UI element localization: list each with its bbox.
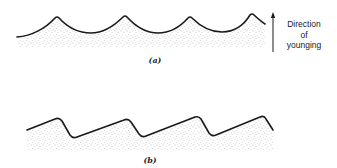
panel-a-ripples xyxy=(17,14,265,47)
panel-a-label: (a) xyxy=(149,55,162,65)
ripple-marks-figure: Direction of younging (a) (b) xyxy=(0,0,337,168)
annotation-line-3: younging xyxy=(285,40,323,51)
panel-b-sediment-fill xyxy=(27,116,273,150)
up-arrow-icon xyxy=(271,12,275,52)
panel-b-label: (b) xyxy=(143,155,156,165)
annotation-line-2: of xyxy=(285,30,323,41)
panel-b-ripples xyxy=(27,116,273,150)
annotation-line-1: Direction xyxy=(285,19,323,30)
direction-of-younging-label: Direction of younging xyxy=(285,19,323,51)
